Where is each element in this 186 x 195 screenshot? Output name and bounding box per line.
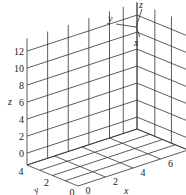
right-wall-horizontal [137,100,186,121]
right-wall-horizontal [137,49,186,70]
triad-z-label: z [138,0,143,10]
floor-line-y [40,134,150,170]
y-tick-label: 0 [70,187,75,195]
y-axis-label: y [31,184,40,195]
z-tick-label: 12 [14,46,24,57]
z-tick-label: 4 [19,114,24,125]
back-wall-horizontal [27,117,137,153]
z-tick-label: 2 [19,131,24,142]
3d-axes-chart: 024681012 02468 024 z x y z y x [0,0,186,195]
back-wall-horizontal [27,100,137,136]
x-axis-label: x [123,185,129,195]
right-wall-horizontal [137,15,186,36]
right-wall-horizontal [137,66,186,87]
back-wall-horizontal [27,49,137,85]
back-wall-horizontal [27,83,137,119]
y-tick-label: 2 [44,177,49,188]
z-tick-label: 8 [19,80,24,91]
z-axis-label: z [7,96,12,107]
x-tick-label: 6 [168,158,173,169]
z-tick-label: 6 [19,97,24,108]
floor-line-y [53,140,163,176]
grid-lines [27,2,186,186]
back-wall-horizontal [27,66,137,102]
z-tick-labels: 024681012 [14,46,24,159]
orientation-triad: z y x [107,0,143,48]
z-tick-label: 10 [14,63,24,74]
right-wall-horizontal [137,117,186,138]
x-tick-label: 2 [113,176,118,187]
floor-line-y [65,145,175,181]
x-tick-label: 4 [141,167,146,178]
y-tick-label: 4 [19,166,24,177]
back-wall-horizontal [27,15,137,51]
x-tick-label: 0 [86,185,91,195]
triad-x-label: x [133,37,139,48]
triad-y-line [116,24,136,27]
right-wall-horizontal [137,32,186,53]
triad-y-label: y [107,13,113,24]
floor-line-y [27,129,137,165]
chart-canvas: 024681012 02468 024 z x y z y x [0,0,186,195]
z-tick-label: 0 [19,148,24,159]
back-wall-horizontal [27,32,137,68]
right-wall-horizontal [137,83,186,104]
